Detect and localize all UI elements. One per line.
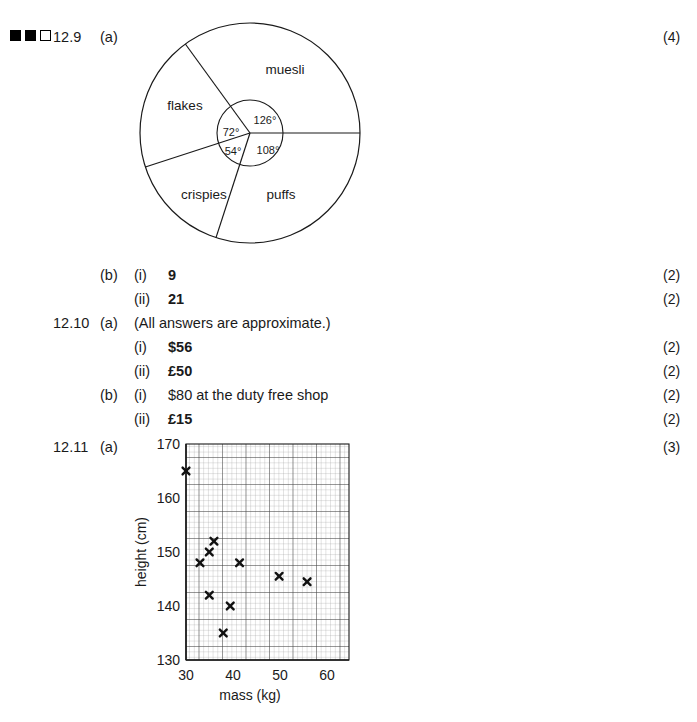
pie-sector-label-puffs: puffs xyxy=(266,187,295,202)
answer-12-10-a-i: $56 xyxy=(168,340,192,355)
y-axis-title: height (cm) xyxy=(133,517,149,587)
y-tick-160: 160 xyxy=(157,490,181,506)
answer-12-9-b-i: 9 xyxy=(168,268,176,283)
marks-12-9-b-ii: (2) xyxy=(663,292,680,306)
answer-12-10-a-ii: £50 xyxy=(168,364,192,379)
question-number-12-11: 12.11 xyxy=(53,440,88,455)
roman-12-10-a-i: (i) xyxy=(134,340,147,355)
difficulty-square-filled-1 xyxy=(10,30,21,41)
x-tick-50: 50 xyxy=(272,667,288,683)
pie-angle-label-flakes: 72° xyxy=(223,126,240,138)
question-part-12-10-b: (b) xyxy=(100,388,118,403)
pie-angle-label-muesli: 126° xyxy=(254,114,277,126)
pie-angle-label-puffs: 108° xyxy=(257,144,280,156)
question-part-12-11-a: (a) xyxy=(100,440,118,455)
marks-12-10-b-ii: (2) xyxy=(663,412,680,426)
answer-12-10-b-i: $80 at the duty free shop xyxy=(168,388,328,403)
marks-12-9-b-i: (2) xyxy=(663,268,680,282)
pie-angle-label-crispies: 54° xyxy=(225,145,242,157)
question-part-12-9-a: (a) xyxy=(100,30,118,45)
pie-sector-label-muesli: muesli xyxy=(265,62,304,77)
answer-12-10-a-note: (All answers are approximate.) xyxy=(134,316,331,331)
roman-12-10-b-i: (i) xyxy=(134,388,147,403)
marks-12-9-a: (4) xyxy=(663,30,680,44)
roman-12-10-a-ii: (ii) xyxy=(134,364,150,379)
x-axis-title: mass (kg) xyxy=(219,687,280,703)
question-part-12-9-b: (b) xyxy=(100,268,118,283)
x-tick-40: 40 xyxy=(225,667,241,683)
marks-12-11-a: (3) xyxy=(663,440,680,454)
roman-12-9-b-i: (i) xyxy=(134,268,147,283)
answer-12-9-b-ii: 21 xyxy=(168,292,184,307)
roman-12-10-b-ii: (ii) xyxy=(134,412,150,427)
y-tick-140: 140 xyxy=(157,598,181,614)
answer-page: 12.9 (a) (4) muesli flakes crispies puff… xyxy=(0,0,697,722)
scatter-plot-height-vs-mass: 170 160 150 140 130 30 40 50 60 mass (kg… xyxy=(128,430,378,715)
pie-sector-label-flakes: flakes xyxy=(167,98,203,113)
pie-chart-svg: muesli flakes crispies puffs 126° 72° 54… xyxy=(133,22,368,257)
question-part-12-10-a: (a) xyxy=(100,316,118,331)
marks-12-10-b-i: (2) xyxy=(663,388,680,402)
y-tick-130: 130 xyxy=(157,652,181,668)
difficulty-squares xyxy=(10,30,51,41)
x-tick-60: 60 xyxy=(319,667,335,683)
pie-sector-label-crispies: crispies xyxy=(181,187,227,202)
marks-12-10-a-ii: (2) xyxy=(663,364,680,378)
roman-12-9-b-ii: (ii) xyxy=(134,292,150,307)
difficulty-square-filled-2 xyxy=(25,30,36,41)
question-number-12-9: 12.9 xyxy=(53,30,81,45)
marks-12-10-a-i: (2) xyxy=(663,340,680,354)
x-tick-30: 30 xyxy=(178,667,194,683)
y-tick-170: 170 xyxy=(157,436,181,452)
y-tick-150: 150 xyxy=(157,544,181,560)
difficulty-square-open-3 xyxy=(40,30,51,41)
pie-chart-cereal-preferences: muesli flakes crispies puffs 126° 72° 54… xyxy=(133,22,368,257)
answer-12-10-b-ii: £15 xyxy=(168,412,192,427)
scatter-plot-svg: 170 160 150 140 130 30 40 50 60 mass (kg… xyxy=(128,430,378,715)
question-number-12-10: 12.10 xyxy=(53,316,89,331)
